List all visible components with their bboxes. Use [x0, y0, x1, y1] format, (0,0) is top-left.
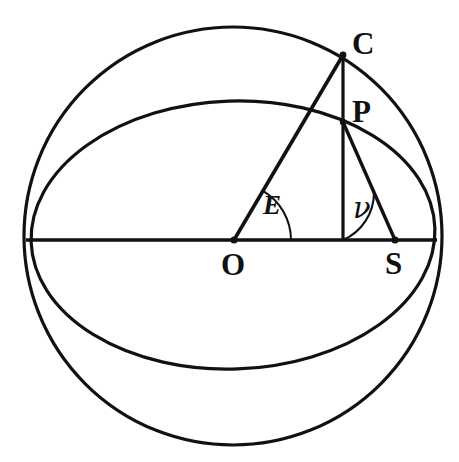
- point-label-o: O: [221, 249, 245, 280]
- angle-label-true-anomaly: ν: [353, 194, 371, 223]
- point-label-c: C: [352, 28, 374, 59]
- point-p-dot: [340, 119, 346, 125]
- radius-oc-line: [234, 55, 343, 240]
- point-c-dot: [340, 52, 347, 59]
- point-label-p: P: [352, 96, 371, 127]
- point-s-dot: [391, 236, 398, 243]
- point-o-dot: [230, 236, 237, 243]
- angle-label-eccentric-anomaly: E: [263, 192, 281, 219]
- figure-container: C P O S E ν: [0, 0, 459, 462]
- orbital-geometry-diagram: [0, 0, 459, 462]
- point-label-s: S: [385, 248, 402, 279]
- orbit-ellipse-shape: [26, 94, 439, 376]
- auxiliary-circle-shape: [24, 27, 442, 445]
